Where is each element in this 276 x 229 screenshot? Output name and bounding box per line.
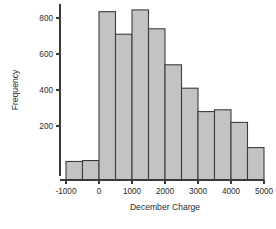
histogram-bar: 1000 to 1500: 845 — [132, 10, 149, 180]
x-axis-tick-label: 4000 — [222, 187, 241, 196]
histogram-bar: 0 to 500: 835 — [99, 12, 116, 180]
histogram-plot: -1000 to -500: 3-500 to 0: 80 to 500: 83… — [0, 0, 276, 229]
y-axis-tick-label: 800 — [39, 14, 53, 23]
y-axis-tick-label: 600 — [39, 50, 53, 59]
histogram-bar: -1000 to -500: 3 — [66, 161, 83, 180]
x-axis-tick-label: 0 — [97, 187, 102, 196]
x-axis-tick-label: 5000 — [255, 187, 274, 196]
histogram-figure: -1000 to -500: 3-500 to 0: 80 to 500: 83… — [0, 0, 276, 229]
x-axis-tick-label: 2000 — [156, 187, 175, 196]
bars-group: -1000 to -500: 3-500 to 0: 80 to 500: 83… — [66, 10, 264, 180]
histogram-bar: 3000 to 3500: 280 — [198, 112, 215, 180]
histogram-bar: 3500 to 4000: 290 — [215, 110, 232, 180]
histogram-bar: 4000 to 4500: 220 — [231, 122, 248, 180]
x-axis-tick-label: 1000 — [123, 187, 142, 196]
histogram-bar: 500 to 1000: 710 — [116, 34, 133, 180]
histogram-bar: 2500 to 3000: 410 — [182, 88, 199, 180]
x-axis-title: December Charge — [130, 202, 200, 212]
y-axis: 200400600800 — [39, 4, 60, 176]
y-axis-tick-label: 400 — [39, 86, 53, 95]
y-axis-title: Frequency — [10, 69, 20, 110]
x-axis-tick-label: -1000 — [56, 187, 77, 196]
x-axis: -1000010002000300040005000 — [56, 180, 274, 196]
histogram-bar: 2000 to 2500: 540 — [165, 65, 182, 180]
histogram-bar: -500 to 0: 8 — [83, 161, 100, 180]
x-axis-tick-label: 3000 — [189, 187, 208, 196]
y-axis-tick-label: 200 — [39, 122, 53, 131]
histogram-bar: 1500 to 2000: 740 — [149, 29, 166, 180]
histogram-bar: 4500 to 5000: 80 — [248, 148, 265, 180]
